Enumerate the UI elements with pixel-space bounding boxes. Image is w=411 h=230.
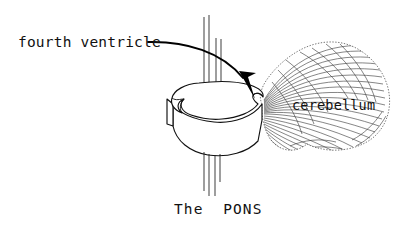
pons-structure — [167, 82, 263, 156]
pons-anatomy-diagram: fourth ventricle cerebellum The PONS — [0, 0, 411, 230]
caption-the-pons: The PONS — [174, 201, 262, 217]
label-cerebellum: cerebellum — [292, 97, 375, 113]
callout-leader-line — [148, 42, 243, 78]
label-fourth-ventricle: fourth ventricle — [18, 34, 161, 50]
fiber-tracts-inferior — [204, 152, 220, 196]
